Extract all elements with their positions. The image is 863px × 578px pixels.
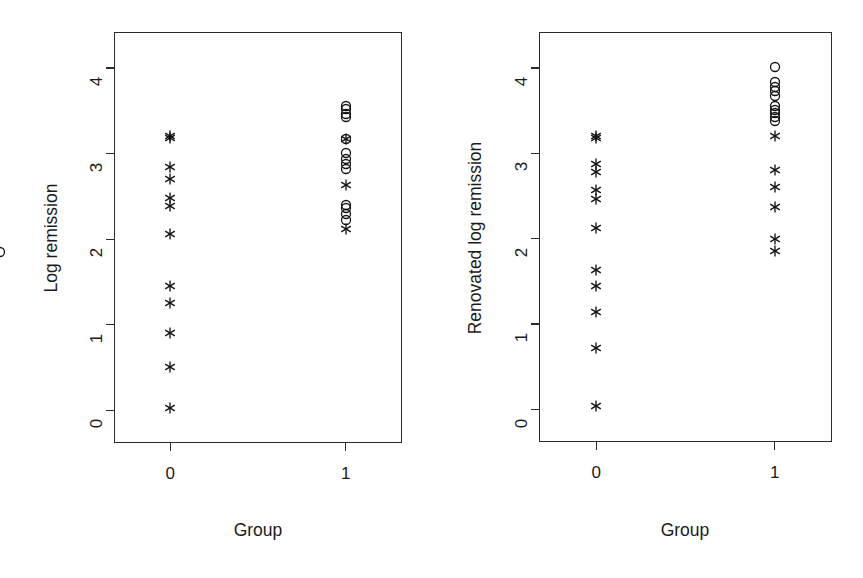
y-tick-mark [531,153,539,154]
y-tick-label: 3 [513,153,530,181]
x-tick-label: 1 [750,464,800,481]
y-tick-label: 4 [88,67,105,95]
y-tick-mark [531,67,539,68]
x-tick-mark [170,443,171,451]
y-axis-label-left: Log remission [41,184,62,293]
y-tick-label: 4 [513,67,530,95]
x-tick-label: 1 [321,465,371,482]
x-axis-label-left: Group [158,520,358,541]
y-tick-mark [531,409,539,410]
y-tick-mark [106,410,114,411]
x-tick-label: 0 [145,465,195,482]
y-axis-label-right: Renovated log remission [465,142,486,335]
y-tick-label: 3 [88,153,105,181]
panel-left: 0123401 Log remission Group [0,0,432,578]
y-tick-mark [106,67,114,68]
plot-box-left [114,32,402,443]
x-tick-mark [774,442,775,450]
x-tick-mark [596,442,597,450]
y-tick-mark [106,153,114,154]
x-axis-label-right: Group [585,520,785,541]
x-tick-label: 0 [571,464,621,481]
y-tick-label: 1 [513,324,530,352]
panel-right: 0123401 Renovated log remission Group [431,0,863,578]
y-tick-label: 1 [88,324,105,352]
y-tick-label: 2 [88,239,105,267]
y-tick-mark [106,239,114,240]
figure-canvas: 0123401 Log remission Group 0123401 Reno… [0,0,863,578]
y-tick-label: 2 [513,238,530,266]
y-tick-label: 0 [513,409,530,437]
x-tick-mark [345,443,346,451]
y-tick-mark [531,323,539,324]
y-tick-label: 0 [88,410,105,438]
y-tick-mark [106,324,114,325]
y-tick-mark [531,238,539,239]
plot-box-right [539,32,832,442]
